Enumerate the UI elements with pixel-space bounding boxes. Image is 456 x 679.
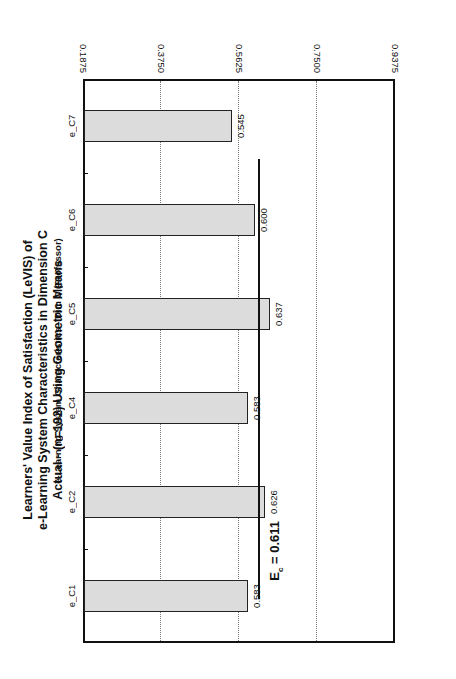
plot-area bbox=[83, 79, 395, 643]
mean-label: Ec = 0.611 bbox=[268, 521, 286, 581]
bar-e_C2 bbox=[84, 486, 265, 518]
y-tick-label: 0.5625 bbox=[234, 23, 245, 73]
bar-e_C5 bbox=[84, 298, 270, 330]
y-tick-label: 0.3750 bbox=[156, 23, 167, 73]
y-tick-label: 0.1875 bbox=[78, 23, 89, 73]
gridline bbox=[160, 81, 161, 641]
y-tick-label: 0.9375 bbox=[390, 23, 401, 73]
category-label: e_C1 bbox=[66, 571, 77, 621]
chart-canvas: Learners' Value Index of Satisfaction (L… bbox=[0, 0, 456, 679]
bar-value-label: 0.626 bbox=[268, 482, 279, 522]
x-tick-mark bbox=[83, 361, 88, 362]
bar-value-label: 0.545 bbox=[235, 106, 246, 146]
bar-e_C6 bbox=[84, 204, 255, 236]
mean-label-sub: c bbox=[276, 568, 285, 572]
mean-reference-line bbox=[258, 159, 260, 599]
bar-value-label: 0.637 bbox=[273, 294, 284, 334]
mean-label-main: E bbox=[268, 572, 283, 581]
x-axis-label: e-Learning System Characteristics - Dim … bbox=[52, 211, 63, 511]
category-label: e_C2 bbox=[66, 477, 77, 527]
y-axis-label: LeVIS bbox=[226, 0, 252, 1]
bar-e_C1 bbox=[84, 580, 248, 612]
x-tick-mark bbox=[83, 549, 88, 550]
title-line-1: Learners' Value Index of Satisfaction (L… bbox=[21, 120, 36, 640]
bar-e_C7 bbox=[84, 110, 232, 142]
gridline bbox=[316, 81, 317, 641]
category-label: e_C4 bbox=[66, 383, 77, 433]
y-tick-label: 0.7500 bbox=[312, 23, 323, 73]
category-label: e_C5 bbox=[66, 289, 77, 339]
x-tick-mark bbox=[83, 267, 88, 268]
mean-label-value: = 0.611 bbox=[268, 521, 283, 568]
x-tick-mark bbox=[83, 455, 88, 456]
bar-e_C4 bbox=[84, 392, 248, 424]
x-tick-mark bbox=[83, 173, 88, 174]
gridline bbox=[238, 81, 239, 641]
title-line-2: e-Learning System Characteristics in Dim… bbox=[36, 120, 51, 640]
category-label: e_C7 bbox=[66, 101, 77, 151]
category-label: e_C6 bbox=[66, 195, 77, 245]
